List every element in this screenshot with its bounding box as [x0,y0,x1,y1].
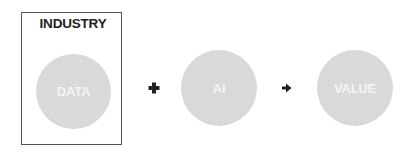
data-node: DATA [36,54,111,129]
plus-icon [148,82,160,94]
value-node: VALUE [317,50,393,126]
data-node-label: DATA [57,84,90,99]
value-node-label: VALUE [334,81,376,96]
ai-node: AI [181,50,257,126]
ai-node-label: AI [213,81,226,96]
industry-title: INDUSTRY [21,16,125,32]
arrow-right-icon [281,82,293,94]
